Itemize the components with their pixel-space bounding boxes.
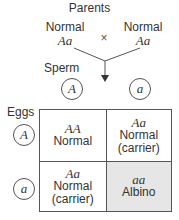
cell-phenotype: Albino <box>122 186 155 199</box>
cell-note: (carrier) <box>52 193 94 206</box>
egg-allele-a: a <box>13 178 35 200</box>
cell-Aa-top: Aa Normal (carrier) <box>106 110 172 161</box>
cross-arrow-icon <box>0 0 179 100</box>
sperm-allele-a: a <box>129 78 151 100</box>
cell-aa: aa Albino <box>106 161 172 212</box>
cell-genotype: Aa <box>66 167 80 180</box>
eggs-label: Eggs <box>7 106 34 119</box>
sperm-allele-A: A <box>61 78 83 100</box>
cell-phenotype: Normal <box>53 180 92 193</box>
egg-allele-A: A <box>13 124 35 146</box>
cell-genotype: Aa <box>132 116 146 129</box>
cell-AA: AA Normal <box>40 110 106 161</box>
cell-phenotype: Normal <box>119 129 158 142</box>
sperm-label: Sperm <box>44 62 79 75</box>
cell-phenotype: Normal <box>53 135 92 148</box>
cell-note: (carrier) <box>118 142 160 155</box>
cell-Aa-bottom: Aa Normal (carrier) <box>40 161 106 212</box>
punnett-square: AA Normal Aa Normal (carrier) Aa Normal … <box>39 109 172 212</box>
